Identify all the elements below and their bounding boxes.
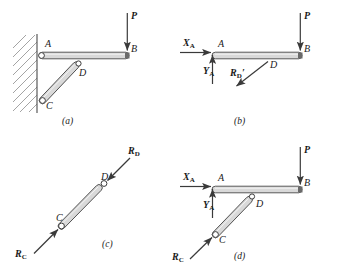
pin-b-d bbox=[298, 187, 303, 193]
panel-b-force-label-p: P bbox=[304, 11, 310, 21]
panel-b-joint-label-b: B bbox=[304, 44, 310, 54]
panel-b-force-label-ya: YA bbox=[203, 66, 214, 78]
force-ya-subscript-d: A bbox=[209, 204, 214, 212]
figure-container: A B C D P (a) A B D XA YA P RD′ (b) D C … bbox=[0, 0, 343, 274]
figure-drawing bbox=[0, 0, 343, 274]
pin-c-d bbox=[213, 232, 219, 238]
force-xa-symbol-d: X bbox=[183, 171, 190, 182]
panel-a-joint-label-b: B bbox=[131, 44, 137, 54]
force-rc-symbol-c: R bbox=[15, 248, 22, 259]
pin-d-d bbox=[249, 194, 254, 199]
panel-b-joint-label-d: D bbox=[270, 60, 277, 70]
panel-d-caption: (d) bbox=[234, 252, 245, 262]
panel-a-drawing bbox=[13, 13, 130, 113]
panel-d-joint-label-b: B bbox=[304, 178, 310, 188]
force-rc-arrow-c bbox=[34, 230, 58, 254]
panel-c-force-label-rd: RD bbox=[128, 146, 140, 158]
force-rd-prime-mark: ′ bbox=[242, 67, 245, 78]
panel-d-force-label-p: P bbox=[304, 145, 310, 155]
panel-d-drawing bbox=[180, 147, 303, 259]
panel-c-drawing bbox=[34, 158, 130, 254]
pin-b bbox=[125, 53, 130, 59]
pin-a bbox=[39, 53, 45, 59]
force-ya-subscript: A bbox=[209, 70, 214, 78]
force-rc-subscript-d: C bbox=[179, 256, 184, 264]
panel-d-joint-label-a: A bbox=[218, 173, 224, 183]
panel-b-caption: (b) bbox=[234, 117, 245, 127]
force-rc-arrow-d bbox=[190, 238, 212, 260]
panel-d-force-label-ya: YA bbox=[203, 200, 214, 212]
force-rd-subscript-c: D bbox=[135, 150, 140, 158]
panel-c-caption: (c) bbox=[102, 240, 113, 250]
force-xa-symbol: X bbox=[183, 37, 190, 48]
panel-d-joint-label-d: D bbox=[256, 199, 263, 209]
member-ab-d bbox=[212, 186, 302, 193]
panel-b-force-label-rd-prime: RD′ bbox=[230, 68, 245, 80]
panel-c-force-label-rc: RC bbox=[15, 249, 27, 261]
panel-c-joint-label-c: C bbox=[56, 213, 63, 223]
member-ab bbox=[39, 52, 129, 59]
force-rd-arrow-c bbox=[108, 158, 131, 181]
force-rd-symbol: R bbox=[230, 67, 237, 78]
wall-hatching-icon bbox=[13, 35, 37, 112]
panel-d-force-label-rc: RC bbox=[172, 252, 184, 264]
panel-a-joint-label-d: D bbox=[79, 68, 86, 78]
force-rd-symbol-c: R bbox=[128, 145, 135, 156]
panel-a-force-label-p: P bbox=[131, 11, 137, 21]
pin-d bbox=[76, 61, 81, 66]
force-xa-subscript-d: A bbox=[190, 176, 195, 184]
panel-b-joint-label-a: A bbox=[218, 39, 224, 49]
force-rc-subscript-c: C bbox=[22, 253, 27, 261]
panel-c-joint-label-d: D bbox=[101, 172, 108, 182]
panel-a-caption: (a) bbox=[62, 117, 73, 127]
panel-a-joint-label-c: C bbox=[46, 101, 53, 111]
pin-c bbox=[40, 98, 46, 104]
pin-b-b bbox=[298, 53, 303, 59]
panel-b-force-label-xa: XA bbox=[183, 38, 195, 50]
force-rc-symbol-d: R bbox=[172, 251, 179, 262]
panel-a-joint-label-a: A bbox=[45, 39, 51, 49]
pin-c-c bbox=[59, 223, 65, 229]
member-ab-b bbox=[212, 52, 302, 59]
force-xa-subscript: A bbox=[190, 42, 195, 50]
panel-d-force-label-xa: XA bbox=[183, 172, 195, 184]
panel-d-joint-label-c: C bbox=[219, 235, 226, 245]
